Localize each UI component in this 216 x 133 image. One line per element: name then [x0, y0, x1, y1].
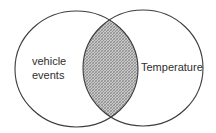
- label-vehicle-line1: vehicle: [32, 55, 66, 67]
- label-temperature: Temperature: [141, 61, 203, 73]
- label-vehicle-line2: events: [32, 69, 65, 81]
- venn-diagram: vehicle events Temperature: [0, 0, 216, 133]
